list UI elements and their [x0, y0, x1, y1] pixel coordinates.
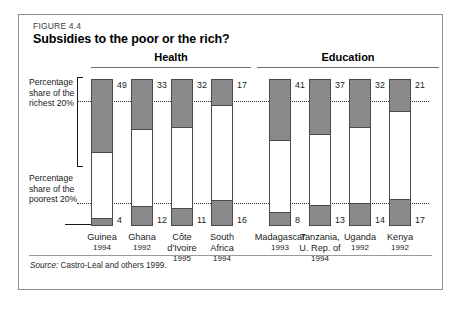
bar-segment-richest — [132, 80, 152, 130]
value-label-poorest: 4 — [117, 215, 122, 225]
value-label-poorest: 12 — [157, 215, 167, 225]
bar-segment-poorest — [390, 199, 410, 225]
value-label-richest: 41 — [295, 80, 305, 90]
bar-segment-richest — [212, 80, 232, 106]
bar-column — [269, 79, 291, 226]
bar-segment-richest — [270, 80, 290, 141]
bar-segment-richest — [172, 80, 192, 128]
bar-segment-poorest — [310, 205, 330, 225]
bar-segment-poorest — [172, 208, 192, 225]
source-rule — [29, 255, 432, 256]
chart-plot-area: 494Guinea19943312Ghana19923211Côte d'Ivo… — [19, 15, 444, 291]
value-label-richest: 37 — [335, 80, 345, 90]
bar-segment-poorest — [212, 200, 232, 225]
source-label: Source: — [30, 261, 58, 270]
bar-column — [171, 79, 193, 226]
reference-line-richest — [77, 101, 429, 102]
bar-segment-poorest — [350, 203, 370, 225]
bar-segment-richest — [390, 80, 410, 112]
source-note: Source: Castro-Leal and others 1999. — [30, 261, 167, 270]
category-label: South Africa — [194, 232, 250, 254]
value-label-poorest: 8 — [295, 215, 300, 225]
category-label: Kenya — [372, 232, 428, 243]
value-label-richest: 33 — [157, 80, 167, 90]
bar-column — [131, 79, 153, 226]
value-label-poorest: 17 — [415, 215, 425, 225]
bar-segment-richest — [92, 80, 112, 153]
value-label-richest: 21 — [415, 80, 425, 90]
value-label-richest: 32 — [197, 80, 207, 90]
source-text: Castro-Leal and others 1999. — [58, 261, 166, 270]
bar-segment-richest — [310, 80, 330, 135]
value-label-richest: 17 — [237, 80, 247, 90]
value-label-poorest: 11 — [197, 215, 206, 225]
value-label-poorest: 16 — [237, 215, 247, 225]
bar-segment-poorest — [270, 212, 290, 225]
bar-column — [211, 79, 233, 226]
bar-segment-richest — [350, 80, 370, 128]
value-label-poorest: 13 — [335, 215, 345, 225]
reference-line-poorest — [77, 203, 429, 204]
bar-column — [389, 79, 411, 226]
value-label-richest: 32 — [375, 80, 385, 90]
value-label-poorest: 14 — [375, 215, 385, 225]
bar-segment-poorest — [92, 218, 112, 225]
bar-column — [309, 79, 331, 226]
bar-segment-poorest — [132, 206, 152, 225]
bar-column — [349, 79, 371, 226]
bar-column — [91, 79, 113, 226]
year-label: 1992 — [372, 243, 428, 252]
value-label-richest: 49 — [117, 80, 127, 90]
figure-panel: FIGURE 4.4 Subsidies to the poor or the … — [18, 14, 443, 290]
